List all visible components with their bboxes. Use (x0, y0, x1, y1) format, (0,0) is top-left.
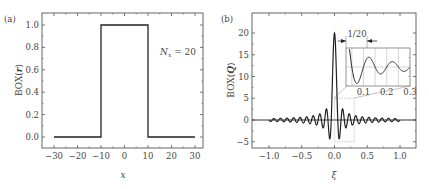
panel-b-x-axis-label: ξ (332, 170, 338, 180)
y-tick-label: 20 (238, 28, 249, 38)
panel-b-y-axis-label: BOX(Q) (226, 62, 236, 97)
ylabel-arg: Q (226, 66, 236, 74)
panel-a-y-ticks: 0.00.20.40.60.81.0 (25, 20, 203, 142)
x-tick-label: −0.5 (291, 151, 312, 161)
x-tick-label: −30 (45, 151, 63, 161)
y-tick-label: 5 (244, 93, 249, 103)
ylabel-prefix: BOX (226, 77, 236, 98)
zoom-connector-left (334, 86, 347, 98)
y-tick-label: 0.8 (25, 42, 39, 52)
y-tick-label: 0.6 (25, 65, 39, 75)
panel-a-y-axis-label: BOX(r) (14, 64, 24, 96)
panel-a-label: (a) (4, 14, 16, 24)
y-tick-label: 0 (244, 115, 249, 125)
inset-spacing-annotation: 1/20 (347, 29, 366, 39)
x-tick-label: −20 (69, 151, 87, 161)
panel-b-inset: 0.10.20.3 1/20 (338, 29, 417, 97)
inset-tick-labels: 0.10.20.3 (357, 87, 417, 97)
y-tick-label: 1.0 (25, 20, 39, 30)
figure: (a) −30−20−100102030 0.00.20.40.60.81.0 … (0, 0, 429, 189)
panel-a-box-function-line (54, 25, 195, 137)
panel-a-annotation: Nx = 20 (159, 47, 196, 58)
inset-x-tick-label: 0.3 (403, 87, 417, 97)
y-tick-label: 0.0 (25, 132, 39, 142)
panel-a: (a) −30−20−100102030 0.00.20.40.60.81.0 … (4, 13, 203, 180)
panel-b-label: (b) (221, 14, 233, 24)
x-tick-label: 0 (122, 151, 127, 161)
y-tick-label: 10 (238, 72, 249, 82)
arrow-right-head-icon (367, 39, 372, 43)
x-tick-label: −10 (92, 151, 110, 161)
annotation-value: = 20 (171, 47, 196, 57)
inset-x-tick-label: 0.2 (380, 87, 394, 97)
y-tick-label: 0.2 (25, 110, 39, 120)
x-tick-label: 30 (190, 151, 201, 161)
panel-a-x-axis-label: x (120, 170, 125, 180)
x-tick-label: −1.0 (259, 151, 280, 161)
x-tick-label: 20 (166, 151, 177, 161)
y-tick-label: 0.4 (25, 87, 39, 97)
x-tick-label: 10 (143, 151, 154, 161)
ylabel-prefix: BOX (14, 75, 24, 96)
x-tick-label: 0.5 (360, 151, 374, 161)
panel-a-x-ticks: −30−20−100102030 (45, 13, 200, 161)
arrow-left-head-icon (341, 39, 346, 43)
y-tick-label: −5 (236, 137, 249, 147)
panel-a-frame (42, 13, 203, 148)
x-tick-label: 1.0 (393, 151, 407, 161)
x-tick-label: 0.0 (328, 151, 342, 161)
y-tick-label: 15 (238, 50, 249, 60)
panel-b: (b) −1.0−0.50.00.51.0 −505101520 0.10.20… (221, 13, 417, 180)
inset-x-tick-label: 0.1 (357, 87, 371, 97)
